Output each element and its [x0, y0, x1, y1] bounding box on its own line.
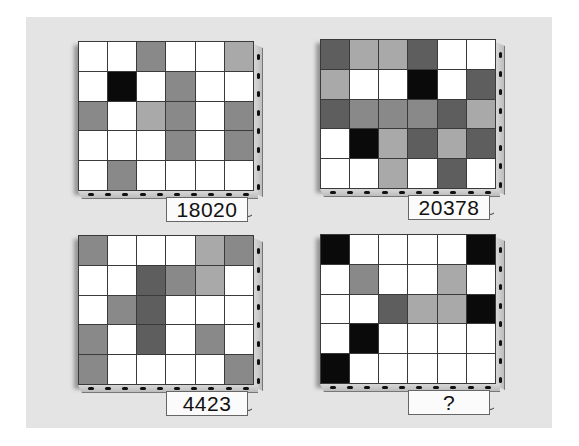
grid-cell [438, 100, 466, 129]
rivet-icon [208, 193, 214, 196]
frame-side-edge [254, 44, 263, 197]
grid-cell [467, 100, 495, 129]
grid-cell [108, 325, 136, 354]
grid-cell [321, 324, 349, 353]
grid-cell [196, 236, 224, 265]
grid-cell [350, 129, 378, 158]
color-grid [78, 235, 254, 385]
puzzle-answer-label: ? [408, 390, 490, 415]
grid-cell [438, 354, 466, 383]
rivet-icon [257, 378, 260, 384]
rivet-icon [243, 387, 249, 390]
rivet-icon [499, 89, 502, 95]
grid-cell [408, 235, 436, 264]
grid-cell [79, 161, 107, 190]
rivet-icon [485, 191, 491, 194]
rivet-icon [499, 145, 502, 151]
rivet-icon [347, 386, 353, 389]
rivet-icon [257, 165, 260, 171]
grid-cell [108, 355, 136, 384]
grid-cell [467, 354, 495, 383]
rivet-icon [499, 163, 502, 169]
grid-cell [108, 72, 136, 101]
grid-cell [108, 161, 136, 190]
frame-side-edge [496, 42, 505, 195]
grid-cell [379, 354, 407, 383]
rivet-icon [105, 387, 111, 390]
grid-cell [137, 102, 165, 131]
rivet-icon [157, 193, 163, 196]
rivet-icon [257, 110, 260, 116]
grid-cell [196, 355, 224, 384]
grid-cell [408, 70, 436, 99]
rivet-icon [257, 147, 260, 153]
rivet-icon [122, 193, 128, 196]
rivet-icon [191, 387, 197, 390]
grid-cell [225, 266, 253, 295]
grid-cell [166, 325, 194, 354]
rivet-icon [88, 193, 94, 196]
grid-cell [225, 296, 253, 325]
puzzle-2: 20378 [320, 39, 506, 225]
grid-cell [321, 235, 349, 264]
puzzle-4: ? [320, 234, 506, 420]
rivet-icon [257, 359, 260, 365]
grid-cell [108, 42, 136, 71]
grid-cell [350, 159, 378, 188]
grid-cell [108, 266, 136, 295]
grid-cell [350, 235, 378, 264]
grid-cell [438, 324, 466, 353]
rivet-icon [257, 73, 260, 79]
grid-cell [79, 131, 107, 160]
rivet-icon [88, 387, 94, 390]
grid-cell [196, 325, 224, 354]
puzzle-value-label: 4423 [166, 391, 248, 416]
grid-cell [321, 40, 349, 69]
grid-cell [467, 295, 495, 324]
rivet-icon [399, 191, 405, 194]
grid-cell [79, 42, 107, 71]
grid-cell [137, 72, 165, 101]
rivet-icon [485, 386, 491, 389]
grid-cell [467, 324, 495, 353]
puzzle-1: 18020 [78, 41, 264, 227]
color-grid [320, 234, 496, 384]
grid-cell [321, 159, 349, 188]
rivet-icon [191, 193, 197, 196]
grid-cell [379, 235, 407, 264]
rivet-icon [226, 387, 232, 390]
grid-cell [467, 129, 495, 158]
color-grid [320, 39, 496, 189]
rivet-icon [499, 52, 502, 58]
grid-cell [408, 159, 436, 188]
rivet-icon [499, 71, 502, 77]
grid-cell [408, 295, 436, 324]
grid-cell [225, 236, 253, 265]
rivet-icon [257, 184, 260, 190]
grid-cell [225, 325, 253, 354]
grid-cell [350, 324, 378, 353]
rivet-icon [499, 266, 502, 272]
grid-cell [137, 355, 165, 384]
rivet-icon [174, 193, 180, 196]
grid-cell [467, 265, 495, 294]
grid-cell [438, 40, 466, 69]
grid-cell [379, 265, 407, 294]
rivet-icon [416, 386, 422, 389]
rivet-icon [257, 341, 260, 347]
puzzle-value-label: 18020 [166, 197, 248, 222]
grid-cell [137, 325, 165, 354]
color-grid [78, 41, 254, 191]
grid-cell [321, 129, 349, 158]
rivet-icon [140, 387, 146, 390]
grid-cell [79, 296, 107, 325]
grid-cell [408, 100, 436, 129]
grid-cell [438, 265, 466, 294]
rivet-icon [382, 191, 388, 194]
grid-cell [137, 266, 165, 295]
rivet-icon [347, 191, 353, 194]
grid-cell [79, 72, 107, 101]
grid-cell [225, 72, 253, 101]
grid-cell [108, 296, 136, 325]
grid-cell [408, 324, 436, 353]
